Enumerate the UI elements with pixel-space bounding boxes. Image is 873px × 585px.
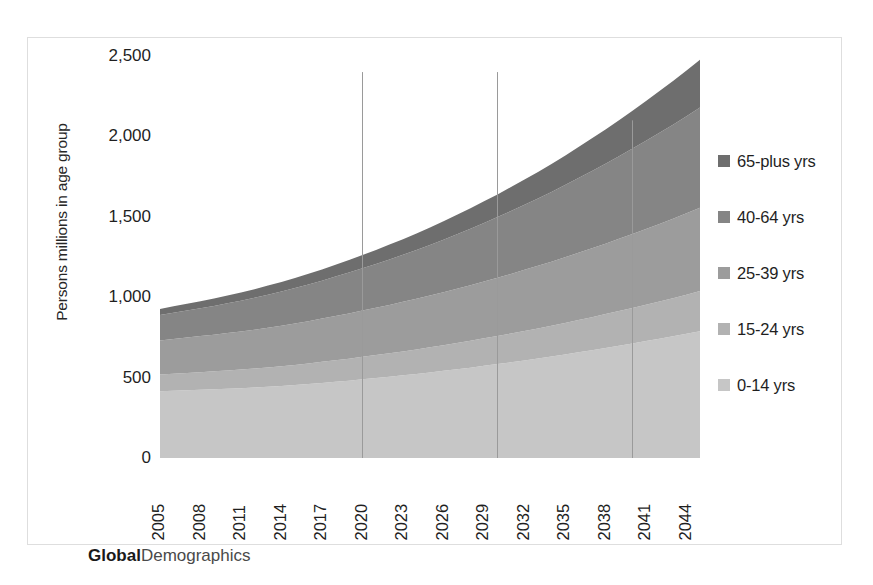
x-tick-label: 2011 bbox=[231, 470, 248, 540]
legend-swatch-icon bbox=[718, 211, 730, 223]
legend-label: 40-64 yrs bbox=[737, 208, 804, 227]
legend-item[interactable]: 65-plus yrs bbox=[718, 133, 868, 189]
watermark-rest: Demographics bbox=[141, 546, 251, 565]
legend-item[interactable]: 15-24 yrs bbox=[718, 301, 868, 357]
legend-swatch-icon bbox=[718, 155, 730, 167]
x-tick-label: 2023 bbox=[393, 470, 410, 540]
y-axis-tick-labels: 2,5002,0001,5001,0005000 bbox=[61, 38, 151, 544]
chart-legend: 65-plus yrs40-64 yrs25-39 yrs15-24 yrs0-… bbox=[718, 133, 868, 413]
stacked-area-plot bbox=[160, 56, 700, 458]
watermark: GlobalDemographics bbox=[88, 546, 251, 566]
x-tick-label: 2029 bbox=[474, 470, 491, 540]
legend-label: 0-14 yrs bbox=[737, 376, 795, 395]
watermark-bold: Global bbox=[88, 546, 141, 565]
x-tick-label: 2017 bbox=[312, 470, 329, 540]
legend-swatch-icon bbox=[718, 379, 730, 391]
y-tick-label: 500 bbox=[81, 369, 151, 386]
x-axis-tick-labels: 2005200820112014201720202023202620292032… bbox=[160, 460, 700, 540]
chart-frame: Persons millions in age group 2,5002,000… bbox=[27, 37, 842, 545]
legend-item[interactable]: 25-39 yrs bbox=[718, 245, 868, 301]
legend-item[interactable]: 0-14 yrs bbox=[718, 357, 868, 413]
x-tick-label: 2038 bbox=[595, 470, 612, 540]
x-tick-label: 2041 bbox=[636, 470, 653, 540]
x-tick-label: 2005 bbox=[150, 470, 167, 540]
x-tick-label: 2008 bbox=[190, 470, 207, 540]
x-tick-label: 2032 bbox=[514, 470, 531, 540]
legend-label: 15-24 yrs bbox=[737, 320, 804, 339]
x-tick-label: 2044 bbox=[676, 470, 693, 540]
x-tick-label: 2035 bbox=[555, 470, 572, 540]
y-tick-label: 1,000 bbox=[81, 288, 151, 305]
legend-item[interactable]: 40-64 yrs bbox=[718, 189, 868, 245]
y-tick-label: 2,500 bbox=[81, 47, 151, 64]
x-tick-label: 2014 bbox=[271, 470, 288, 540]
y-tick-label: 0 bbox=[81, 449, 151, 466]
legend-label: 25-39 yrs bbox=[737, 264, 804, 283]
y-tick-label: 1,500 bbox=[81, 208, 151, 225]
legend-label: 65-plus yrs bbox=[737, 152, 816, 171]
x-tick-label: 2026 bbox=[433, 470, 450, 540]
y-tick-label: 2,000 bbox=[81, 127, 151, 144]
plot-area bbox=[160, 56, 700, 458]
legend-swatch-icon bbox=[718, 267, 730, 279]
legend-swatch-icon bbox=[718, 323, 730, 335]
x-tick-label: 2020 bbox=[352, 470, 369, 540]
